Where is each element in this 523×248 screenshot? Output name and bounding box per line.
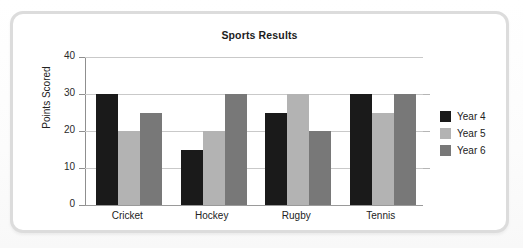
bar-tennis-year-5 — [372, 113, 394, 206]
chart-legend: Year 4Year 5Year 6 — [440, 109, 486, 160]
bar-hockey-year-6 — [225, 94, 247, 205]
y-tick-right-10 — [423, 168, 430, 169]
legend-swatch-icon — [440, 145, 451, 156]
x-label-hockey: Hockey — [167, 210, 257, 221]
legend-label: Year 6 — [457, 145, 486, 156]
bar-cricket-year-6 — [140, 113, 162, 206]
x-label-rugby: Rugby — [251, 210, 341, 221]
y-tick-label-40: 40 — [35, 50, 75, 61]
legend-swatch-icon — [440, 128, 451, 139]
y-tick-label-10: 10 — [35, 161, 75, 172]
bar-group-tennis — [350, 57, 416, 205]
chart-title: Sports Results — [13, 29, 506, 41]
bar-hockey-year-5 — [203, 131, 225, 205]
y-tick-label-20: 20 — [35, 124, 75, 135]
bar-rugby-year-4 — [265, 113, 287, 206]
y-tick-right-20 — [423, 131, 430, 132]
bar-group-cricket — [96, 57, 162, 205]
legend-item-year-4: Year 4 — [440, 109, 486, 124]
y-tick-label-0: 0 — [35, 198, 75, 209]
legend-label: Year 5 — [457, 128, 486, 139]
bar-tennis-year-4 — [350, 94, 372, 205]
legend-swatch-icon — [440, 111, 451, 122]
chart-frame: Sports Results Points Scored 010203040 C… — [10, 11, 509, 233]
gridline-0 — [85, 205, 423, 206]
bar-cricket-year-5 — [118, 131, 140, 205]
y-tick-right-30 — [423, 94, 430, 95]
legend-item-year-5: Year 5 — [440, 126, 486, 141]
bar-group-hockey — [181, 57, 247, 205]
bar-cricket-year-4 — [96, 94, 118, 205]
plot-area — [85, 57, 423, 205]
bar-hockey-year-4 — [181, 150, 203, 206]
legend-label: Year 4 — [457, 111, 486, 122]
bar-tennis-year-6 — [394, 94, 416, 205]
bar-rugby-year-5 — [287, 94, 309, 205]
bar-rugby-year-6 — [309, 131, 331, 205]
bar-group-rugby — [265, 57, 331, 205]
x-label-cricket: Cricket — [82, 210, 172, 221]
x-label-tennis: Tennis — [336, 210, 426, 221]
legend-item-year-6: Year 6 — [440, 143, 486, 158]
y-tick-label-30: 30 — [35, 87, 75, 98]
